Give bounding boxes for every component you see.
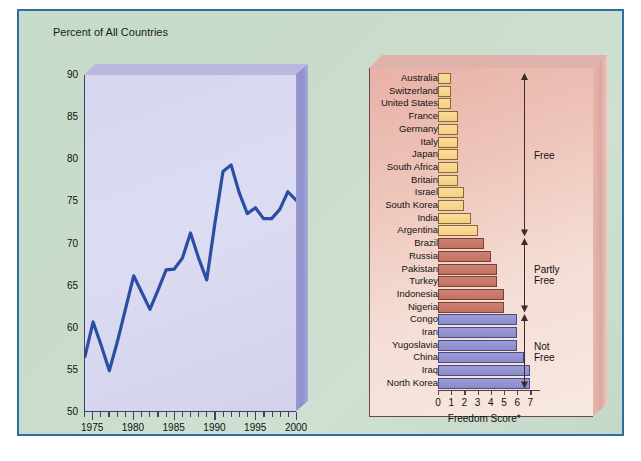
bar-chart-x-tick: [491, 390, 492, 395]
line-chart-x-tick: [296, 412, 297, 420]
line-chart-box-top: [84, 64, 306, 75]
line-chart-x-tick: [255, 412, 256, 420]
bar-chart-category-label: Pakistan: [402, 263, 438, 274]
bar-chart-category-label: Iraq: [422, 364, 438, 375]
line-chart-x-tick: [198, 412, 199, 417]
bar-chart-bar: [438, 264, 497, 275]
line-chart-x-tick: [190, 412, 191, 417]
line-chart-x-tick: [166, 412, 167, 417]
bar-chart-x-tick-label: 6: [510, 397, 524, 408]
line-chart-x-tick: [141, 412, 142, 417]
bar-chart-category-label: Russia: [409, 250, 438, 261]
line-chart-y-tick-label: 75: [56, 195, 78, 206]
line-chart-x-tick: [108, 412, 109, 417]
bar-chart-bar: [438, 340, 517, 351]
line-chart-x-tick: [84, 412, 85, 417]
bar-chart-x-tick-label: 2: [457, 397, 471, 408]
line-chart-x-tick: [117, 412, 118, 417]
bar-chart-bar: [438, 302, 504, 313]
line-chart-x-tick: [247, 412, 248, 417]
line-chart-x-tick: [100, 412, 101, 417]
bar-chart-x-tick: [464, 390, 465, 395]
bar-chart-bar: [438, 200, 464, 211]
bar-chart-category-label: Iran: [422, 326, 438, 337]
bar-chart-category-label: Italy: [421, 136, 438, 147]
bar-chart-bar: [438, 73, 451, 84]
bar-chart-category-label: Britain: [411, 174, 438, 185]
bar-chart-bar: [438, 276, 497, 287]
line-chart-x-tick: [206, 412, 207, 417]
bar-chart-group-label: Not Free: [534, 341, 555, 363]
line-chart-x-tick: [239, 412, 240, 417]
bar-chart-bar: [438, 149, 458, 160]
bar-chart-category-label: Israel: [415, 186, 438, 197]
line-chart-y-tick-label: 80: [56, 153, 78, 164]
bar-chart-group-label: Free: [534, 150, 555, 161]
bar-chart-group-arrow-icon: [520, 238, 529, 313]
bar-chart-x-tick: [504, 390, 505, 395]
bar-chart-category-label: North Korea: [387, 377, 438, 388]
bar-chart-x-tick-label: 7: [523, 397, 537, 408]
bar-chart-x-tick: [451, 390, 452, 395]
line-chart-y-tick-label: 65: [56, 280, 78, 291]
bar-chart-x-tick-label: 5: [497, 397, 511, 408]
bar-chart-category-label: Congo: [410, 313, 438, 324]
line-chart-x-tick: [133, 412, 134, 420]
bar-chart-x-tick-label: 3: [471, 397, 485, 408]
bar-chart-bar: [438, 365, 530, 376]
bar-chart-group-label: Partly Free: [534, 264, 560, 286]
bar-chart-bar: [438, 352, 524, 363]
bar-chart-category-label: China: [413, 351, 438, 362]
bar-chart-panel: AustraliaSwitzerlandUnited StatesFranceG…: [364, 23, 614, 423]
bar-chart-bar: [438, 238, 484, 249]
bar-chart-group-arrow-icon: [520, 314, 529, 389]
bar-chart-bar: [438, 225, 478, 236]
line-chart-x-tick: [280, 412, 281, 417]
line-chart-x-tick-label: 1980: [117, 422, 149, 433]
bar-chart-axis-title: Freedom Score*: [438, 413, 530, 424]
line-chart-y-tick-label: 90: [56, 69, 78, 80]
bar-chart-bar: [438, 98, 451, 109]
line-chart-x-tick: [92, 412, 93, 420]
bar-chart-category-label: United States: [381, 97, 438, 108]
bar-chart-category-label: Argentina: [397, 224, 438, 235]
bar-chart-group-arrow-icon: [520, 73, 529, 236]
bar-chart-category-label: Turkey: [409, 275, 438, 286]
bar-chart-category-label: Brazil: [414, 237, 438, 248]
bar-chart-plot-area: AustraliaSwitzerlandUnited StatesFranceG…: [369, 68, 593, 417]
bar-chart-box-top: [369, 55, 607, 68]
bar-chart-category-label: Nigeria: [408, 301, 438, 312]
line-chart-box-side: [295, 64, 308, 412]
line-chart-x-tick: [149, 412, 150, 417]
bar-chart-axis-line: [438, 390, 540, 391]
line-chart-x-tick-label: 1985: [158, 422, 190, 433]
line-chart-x-tick: [223, 412, 224, 417]
line-chart-x-tick-label: 2000: [280, 422, 312, 433]
line-chart-x-tick: [125, 412, 126, 417]
bar-chart-category-label: France: [408, 110, 438, 121]
bar-chart-x-tick: [478, 390, 479, 395]
figure-frame: Percent of All Countries 908580757065605…: [17, 9, 624, 436]
bar-chart-bar: [438, 378, 530, 389]
line-chart-x-tick: [157, 412, 158, 417]
bar-chart-bar: [438, 251, 491, 262]
bar-chart-bar: [438, 162, 458, 173]
bar-chart-category-label: Indonesia: [397, 288, 438, 299]
line-chart-x-tick: [214, 412, 215, 420]
line-chart-y-tick-label: 60: [56, 322, 78, 333]
line-chart-x-tick-label: 1990: [198, 422, 230, 433]
line-chart-x-tick-label: 1995: [239, 422, 271, 433]
line-chart-x-tick: [288, 412, 289, 417]
bar-chart-category-label: India: [417, 212, 438, 223]
bar-chart-bar: [438, 124, 458, 135]
bar-chart-category-label: Australia: [401, 72, 438, 83]
bar-chart-bar: [438, 314, 517, 325]
bar-chart-x-tick-label: 1: [444, 397, 458, 408]
line-chart-x-tick-label: 1975: [76, 422, 108, 433]
line-chart-x-tick: [231, 412, 232, 417]
line-series-path: [85, 165, 296, 371]
bar-chart-x-tick: [438, 390, 439, 395]
bar-chart-bar: [438, 213, 471, 224]
bar-chart-category-label: Germany: [399, 123, 438, 134]
bar-chart-group-bracket: Partly Free: [520, 238, 590, 313]
